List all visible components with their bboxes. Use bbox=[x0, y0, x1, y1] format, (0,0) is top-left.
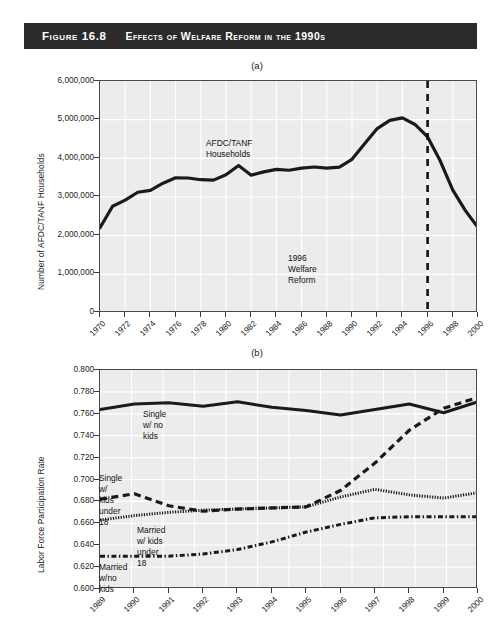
panel-a-ytick-0: 6,000,000 bbox=[42, 76, 94, 85]
panel-b-ytick-10: 0.600 bbox=[52, 584, 94, 593]
panel-a-xtick-8: 1986 bbox=[279, 319, 309, 349]
panel-b-ytick-3: 0.740 bbox=[52, 430, 94, 439]
panel-b-xtick-5: 1994 bbox=[249, 595, 279, 625]
panel-a-xtickmark bbox=[124, 312, 125, 317]
panel-a-xtickmark bbox=[351, 312, 352, 317]
panel-b-xtickmark bbox=[443, 588, 444, 593]
panel-b-ytick-5: 0.700 bbox=[52, 474, 94, 483]
panel-b-label-married-no-kids: Married w/no kids bbox=[99, 562, 127, 595]
panel-b-ytick-0: 0.800 bbox=[52, 365, 94, 374]
panel-b-xtickmark bbox=[477, 588, 478, 593]
panel-b-xtick-3: 1992 bbox=[180, 595, 210, 625]
panel-b-xtick-6: 1995 bbox=[283, 595, 313, 625]
panel-a-xtickmark bbox=[326, 312, 327, 317]
panel-a-series-group bbox=[100, 118, 477, 228]
panel-a-gridlines-horizontal bbox=[100, 120, 477, 275]
panel-b-xtickmark bbox=[236, 588, 237, 593]
panel-b-label-single-with-kids: Single w/ kids under 18 bbox=[99, 473, 122, 528]
panel-b-label-single-no-kids: Single w/ no kids bbox=[143, 409, 166, 442]
panel-a-xtick-3: 1976 bbox=[153, 319, 183, 349]
panel-b-xtick-10: 1999 bbox=[421, 595, 451, 625]
panel-a-series-annotation: AFDC/TANF Households bbox=[206, 138, 252, 160]
panel-a-ytick-1: 5,000,000 bbox=[42, 114, 94, 123]
panel-b-xtickmark bbox=[133, 588, 134, 593]
panel-a-ytick-2: 4,000,000 bbox=[42, 153, 94, 162]
figure-title: Effects of Welfare Reform in the 1990s bbox=[126, 30, 326, 42]
panel-b-letter: (b) bbox=[237, 347, 277, 358]
panel-b-xtickmark bbox=[168, 588, 169, 593]
panel-b-xtickmark bbox=[340, 588, 341, 593]
panel-a-xtickmark bbox=[225, 312, 226, 317]
panel-a-xtickmark bbox=[175, 312, 176, 317]
panel-a-xtickmark bbox=[376, 312, 377, 317]
figure-header-bar: Figure 16.8 Effects of Welfare Reform in… bbox=[24, 23, 477, 49]
panel-b-xtick-11: 2000 bbox=[455, 595, 485, 625]
panel-a-xtickmark bbox=[200, 312, 201, 317]
panel-a-xtickmark bbox=[99, 312, 100, 317]
panel-b-xtickmark bbox=[99, 588, 100, 593]
panel-a-ytick-6: 0 bbox=[42, 307, 94, 316]
panel-b-xtick-9: 1998 bbox=[386, 595, 416, 625]
panel-a-line-afdc-tanf bbox=[100, 118, 477, 228]
panel-a-xtickmark bbox=[149, 312, 150, 317]
panel-b-y-axis-label: Labor Force Participation Rate bbox=[36, 456, 46, 573]
panel-a-xtick-12: 1994 bbox=[379, 319, 409, 349]
figure-page: Figure 16.8 Effects of Welfare Reform in… bbox=[0, 0, 501, 639]
panel-b-ytick-6: 0.680 bbox=[52, 496, 94, 505]
panel-a-xtick-7: 1984 bbox=[253, 319, 283, 349]
panel-b-ytick-4: 0.720 bbox=[52, 452, 94, 461]
panel-a-xtickmark bbox=[477, 312, 478, 317]
panel-a-ytick-4: 2,000,000 bbox=[42, 230, 94, 239]
panel-b-xtick-8: 1997 bbox=[352, 595, 382, 625]
panel-b-xtick-2: 1991 bbox=[146, 595, 176, 625]
panel-b-ytick-7: 0.660 bbox=[52, 518, 94, 527]
panel-b-ytick-8: 0.640 bbox=[52, 540, 94, 549]
panel-b-ytick-1: 0.780 bbox=[52, 386, 94, 395]
panel-a-xtickmark bbox=[301, 312, 302, 317]
panel-b-xtick-1: 1990 bbox=[111, 595, 141, 625]
panel-a-xtickmark bbox=[250, 312, 251, 317]
panel-a-letter: (a) bbox=[237, 60, 277, 71]
panel-b-xtickmark bbox=[408, 588, 409, 593]
panel-b-ytick-9: 0.620 bbox=[52, 562, 94, 571]
panel-b-xtickmark bbox=[202, 588, 203, 593]
panel-a-xtick-2: 1974 bbox=[127, 319, 157, 349]
panel-b-xtick-0: 1989 bbox=[77, 595, 107, 625]
panel-a-ytick-5: 1,000,000 bbox=[42, 268, 94, 277]
panel-b-xtick-4: 1993 bbox=[214, 595, 244, 625]
panel-b-ytick-2: 0.760 bbox=[52, 408, 94, 417]
panel-b-xtickmark bbox=[374, 588, 375, 593]
panel-b-label-married-with-kids: Married w/ kids under 18 bbox=[137, 525, 165, 569]
panel-a-xtickmark bbox=[427, 312, 428, 317]
panel-a-ytick-3: 3,000,000 bbox=[42, 191, 94, 200]
panel-a-xtickmark bbox=[452, 312, 453, 317]
panel-a-xtick-13: 1996 bbox=[405, 319, 435, 349]
panel-a-event-annotation: 1996 Welfare Reform bbox=[288, 253, 317, 286]
panel-b-xtick-7: 1996 bbox=[317, 595, 347, 625]
panel-b-xtickmark bbox=[305, 588, 306, 593]
panel-a-xtickmark bbox=[275, 312, 276, 317]
panel-b-xtickmark bbox=[271, 588, 272, 593]
panel-a-xtickmark bbox=[401, 312, 402, 317]
figure-number: Figure 16.8 bbox=[42, 30, 107, 42]
